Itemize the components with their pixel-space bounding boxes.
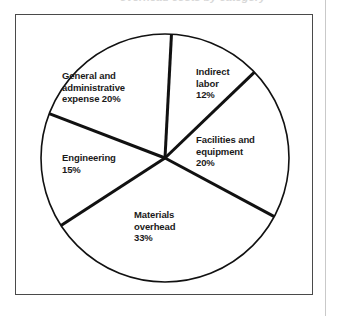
- pie-chart: [0, 0, 337, 316]
- slice-label-materials-overhead: Materials overhead 33%: [134, 209, 214, 244]
- slice-label-general-and-administrative-expense: General and administrative expense 20%: [62, 70, 158, 105]
- slice-label-indirect-labor: Indirect labor 12%: [196, 66, 266, 101]
- slice-label-facilities-and-equipment: Facilities and equipment 20%: [196, 134, 280, 169]
- slice-label-engineering: Engineering 15%: [62, 152, 146, 175]
